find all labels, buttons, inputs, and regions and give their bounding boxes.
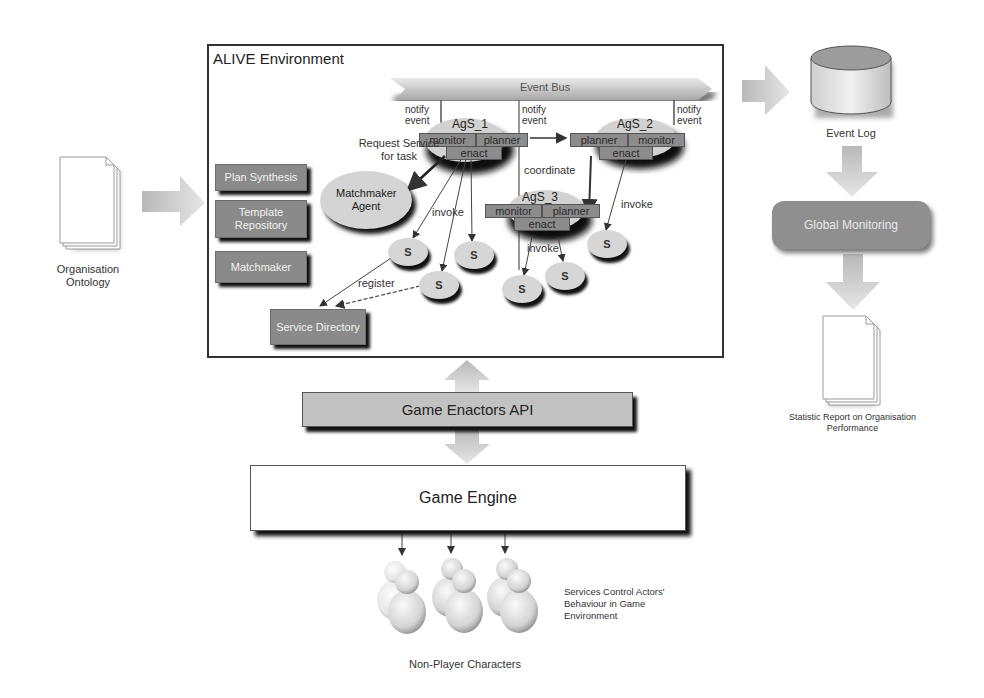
agent-1-planner-cell: planner <box>476 133 528 147</box>
game-enactors-api-box: Game Enactors API <box>302 392 633 427</box>
alive-api-bidirectional-arrow <box>444 360 490 392</box>
template-repository-module: Template Repository <box>215 200 307 238</box>
api-engine-bidirectional-arrow <box>444 428 490 464</box>
agent-1-name: AgS_1 <box>452 117 488 131</box>
service-node: S <box>419 271 459 299</box>
organisation-ontology-label: Organisation Ontology <box>38 263 138 289</box>
agent-3-monitor-cell: monitor <box>485 204 542 218</box>
agent-3-enact-cell: enact <box>514 217 570 231</box>
game-engine-box: Game Engine <box>250 465 686 531</box>
agent-2-monitor-cell: monitor <box>628 133 685 147</box>
event-log-database-icon <box>811 46 893 118</box>
notify-event-label-2: notify event <box>522 104 546 126</box>
ontology-document-icon <box>60 157 120 250</box>
global-monitoring-box: Global Monitoring <box>772 201 930 249</box>
service-node: S <box>545 262 585 290</box>
agent-3-name: AgS_3 <box>522 190 558 204</box>
invoke-label-agent-3: invoke <box>527 242 559 255</box>
monitoring-to-report-arrow <box>826 254 880 310</box>
agent-2-enact-cell: enact <box>599 146 653 160</box>
plan-synthesis-module: Plan Synthesis <box>215 164 307 191</box>
npc-group-icon <box>377 558 538 634</box>
event-log-label: Event Log <box>806 127 896 140</box>
notify-event-label-1: notify event <box>405 104 429 126</box>
matchmaker-agent-node: Matchmaker Agent <box>320 171 412 229</box>
matchmaker-agent-label: Matchmaker Agent <box>336 187 396 213</box>
service-node: S <box>454 241 494 269</box>
request-service-label: Request Service for task <box>354 137 444 163</box>
invoke-label-agent-1: invoke <box>432 206 464 219</box>
report-document-icon <box>823 316 880 406</box>
agent-2-name: AgS_2 <box>617 117 653 131</box>
service-directory-module: Service Directory <box>270 309 366 345</box>
service-node: S <box>587 230 627 258</box>
coordinate-label: coordinate <box>524 164 575 177</box>
alive-to-eventlog-arrow <box>742 65 790 115</box>
agent-1-enact-cell: enact <box>446 146 502 160</box>
alive-environment-title: ALIVE Environment <box>213 50 344 67</box>
statistic-report-label: Statistic Report on Organisation Perform… <box>770 412 935 435</box>
register-label: register <box>358 277 395 290</box>
service-node: S <box>502 275 542 303</box>
event-bus-label: Event Bus <box>520 81 570 93</box>
npc-note-label: Services Control Actors' Behaviour in Ga… <box>564 586 676 622</box>
notify-event-label-3: notify event <box>677 104 701 126</box>
npc-label: Non-Player Characters <box>380 658 550 670</box>
matchmaker-module: Matchmaker <box>215 251 307 283</box>
agent-2-planner-cell: planner <box>570 133 628 147</box>
eventlog-to-monitoring-arrow <box>826 146 878 197</box>
agent-3-planner-cell: planner <box>542 204 600 218</box>
service-node: S <box>388 238 428 266</box>
invoke-label-agent-2: invoke <box>621 198 653 211</box>
ontology-to-alive-arrow <box>142 176 205 226</box>
